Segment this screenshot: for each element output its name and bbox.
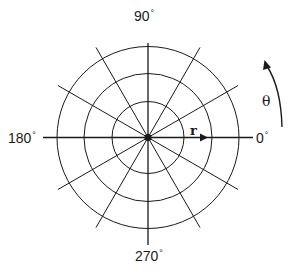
angle-value: 0 [256,130,264,146]
degree-symbol: ° [265,130,269,140]
angle-value: 180 [8,130,31,146]
origin-dot [145,134,152,141]
angle-label-180: 180° [8,131,36,145]
polar-diagram: 90° 180° 0° 270° r θ [0,0,292,275]
grid-spoke [96,47,148,137]
radial-label: r [190,124,197,137]
grid-spoke [148,138,238,190]
radial-arrow-icon [200,134,208,142]
axes [43,43,253,245]
degree-symbol: ° [151,8,155,18]
grid-spoke [148,138,200,228]
angle-value: 90 [134,8,150,24]
angle-label-90: 90° [134,9,154,23]
degree-symbol: ° [159,248,163,258]
grid-spoke [58,86,148,138]
angular-label: θ [262,94,270,108]
angle-label-270: 270° [135,249,163,263]
polar-grid [0,0,292,275]
degree-symbol: ° [32,130,36,140]
grid-spoke [58,138,148,190]
grid-spoke [96,138,148,228]
angle-label-0: 0° [256,131,268,145]
angle-value: 270 [135,248,158,264]
